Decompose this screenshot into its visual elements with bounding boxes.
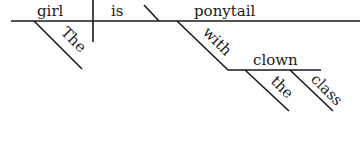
preposition-word: with (199, 23, 236, 60)
object-adjective-word: class (307, 70, 346, 109)
subject-article-word: The (57, 23, 90, 56)
complement-slash (144, 5, 159, 21)
subject-word: girl (37, 2, 64, 20)
verb-word: is (111, 2, 124, 20)
object-word: clown (253, 51, 298, 69)
complement-word: ponytail (194, 2, 256, 20)
sentence-diagram: girl is ponytail The with clown the clas… (0, 0, 360, 148)
object-article-word: the (267, 72, 297, 102)
